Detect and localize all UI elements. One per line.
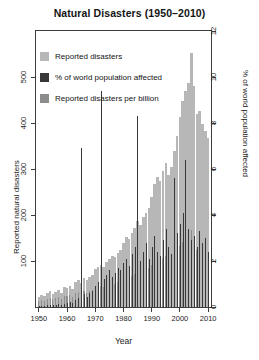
bar: [44, 306, 45, 307]
bar: [112, 277, 113, 307]
y-tick-mark: [31, 123, 35, 124]
x-tick-label: 1950: [30, 314, 47, 323]
bar: [61, 305, 62, 307]
bar: [109, 270, 110, 307]
legend-label: % of world population affected: [55, 73, 162, 82]
bar: [183, 213, 184, 307]
bar: [106, 275, 107, 307]
x-tick-label: 1960: [59, 314, 76, 323]
x-tick-label: 1990: [143, 314, 160, 323]
bar: [58, 304, 59, 307]
y2-tick-label: 0: [209, 305, 218, 309]
x-tick-label: 1970: [87, 314, 104, 323]
bar: [95, 286, 96, 307]
bar: [137, 116, 138, 307]
bar: [168, 247, 169, 307]
bar: [140, 261, 141, 307]
y2-axis-title: % of world population affected: [241, 70, 250, 177]
bar: [47, 305, 48, 307]
bar: [143, 252, 144, 307]
bar: [191, 240, 192, 307]
bar: [75, 300, 76, 307]
bar: [166, 229, 167, 307]
bar: [56, 305, 57, 307]
bar: [53, 305, 54, 307]
bar: [132, 254, 133, 307]
bar: [98, 282, 99, 307]
bar: [129, 266, 130, 307]
bar: [205, 238, 206, 307]
bar: [202, 243, 203, 307]
bar: [126, 259, 127, 307]
bar: [92, 291, 93, 307]
bar: [81, 148, 82, 307]
natural-disasters-chart: Natural Disasters (1950–2010) Reported n…: [0, 0, 259, 360]
bar: [72, 303, 73, 307]
chart-title: Natural Disasters (1950–2010): [0, 7, 259, 19]
bar: [118, 268, 119, 307]
bar: [64, 304, 65, 307]
bar: [177, 233, 178, 307]
y2-tick-label: 12: [209, 27, 218, 35]
bar: [152, 247, 153, 307]
legend-swatch-icon: [40, 94, 49, 103]
x-tick-mark: [38, 308, 39, 312]
y2-tick-label: 6: [209, 167, 218, 171]
bar: [174, 178, 175, 307]
bar: [120, 270, 121, 307]
bar: [154, 236, 155, 307]
legend-item: Reported disasters per billion: [40, 88, 162, 109]
x-tick-label: 2000: [172, 314, 189, 323]
bar: [87, 297, 88, 307]
bar: [197, 247, 198, 307]
x-tick-label: 1980: [115, 314, 132, 323]
y2-tick-label: 4: [209, 213, 218, 217]
x-tick-label: 2010: [200, 314, 217, 323]
bar: [194, 236, 195, 307]
bar: [180, 224, 181, 307]
x-tick-mark: [179, 308, 180, 312]
legend-label: Reported disasters per billion: [55, 94, 159, 103]
bar: [67, 303, 68, 307]
y-tick-mark: [31, 261, 35, 262]
y2-tick-label: 10: [209, 73, 218, 81]
y2-tick-label: 2: [209, 259, 218, 263]
bar: [163, 240, 164, 307]
y-tick-mark: [31, 169, 35, 170]
legend-item: % of world population affected: [40, 67, 162, 88]
bar: [50, 305, 51, 307]
legend-swatch-icon: [40, 52, 49, 61]
bar: [199, 231, 200, 307]
bar: [101, 91, 102, 307]
y-tick-label: 500: [19, 71, 28, 84]
x-axis-title: Year: [35, 336, 212, 346]
bar: [188, 229, 189, 307]
bar: [171, 254, 172, 307]
bar: [149, 259, 150, 307]
bar: [41, 306, 42, 307]
legend-item: Reported disasters: [40, 46, 162, 67]
bar: [160, 256, 161, 307]
y-tick-label: 200: [19, 209, 28, 222]
bar: [157, 252, 158, 307]
chart-legend: Reported disasters% of world population …: [40, 46, 162, 109]
bar: [39, 306, 40, 307]
bar: [70, 302, 71, 307]
bar: [84, 294, 85, 307]
bar: [146, 243, 147, 307]
bar: [115, 273, 116, 308]
bar: [135, 247, 136, 307]
y-tick-mark: [31, 215, 35, 216]
bar: [78, 298, 79, 307]
x-tick-mark: [95, 308, 96, 312]
bar: [185, 160, 186, 307]
y2-tick-label: 8: [209, 121, 218, 125]
y-tick-label: 300: [19, 163, 28, 176]
x-tick-mark: [151, 308, 152, 312]
y-tick-label: 100: [19, 255, 28, 268]
bar: [104, 279, 105, 307]
bar: [123, 263, 124, 307]
bar: [89, 293, 90, 307]
legend-label: Reported disasters: [55, 52, 122, 61]
y-tick-label: 400: [19, 117, 28, 130]
